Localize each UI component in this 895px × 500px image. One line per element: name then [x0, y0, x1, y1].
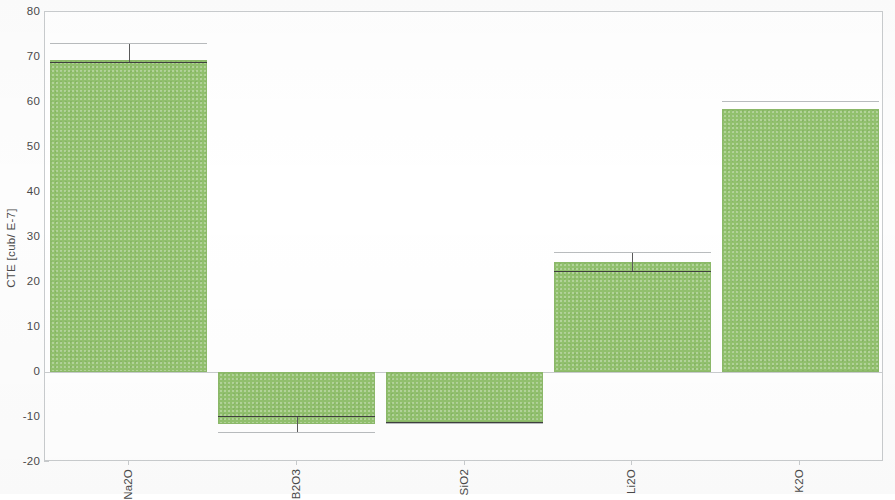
error-bar-cap-outer [554, 252, 711, 253]
error-bar-cap-outer [722, 101, 879, 102]
x-tick-label: Li2O [625, 469, 637, 494]
y-tick-label: 30 [27, 230, 40, 242]
x-tick-label: K2O [793, 469, 805, 493]
bar [386, 372, 543, 422]
bar [218, 372, 375, 424]
bar [554, 262, 711, 372]
x-tick-mark [128, 461, 129, 465]
y-tick-label: 20 [27, 275, 40, 287]
y-tick-label: 40 [27, 185, 40, 197]
x-tick-mark [631, 461, 632, 465]
error-bar-cap-outer [50, 43, 207, 44]
y-tick-label: 10 [27, 320, 40, 332]
error-bar-cap-outer [218, 432, 375, 433]
y-tick-label: 70 [27, 50, 40, 62]
plot-area [44, 11, 883, 461]
x-tick-mark [799, 461, 800, 465]
x-tick-label: B2O3 [290, 469, 302, 499]
error-bar [722, 99, 879, 103]
y-tick-label: 60 [27, 95, 40, 107]
x-tick-label: SiO2 [458, 469, 470, 495]
x-tick-mark [464, 461, 465, 465]
error-bar-cap-outer [386, 423, 543, 424]
x-axis-ticks: Na2OB2O3SiO2Li2OK2O [0, 461, 895, 494]
y-tick-label: 80 [27, 5, 40, 17]
x-tick-mark [296, 461, 297, 465]
y-tick-label: 0 [33, 365, 40, 377]
bar [722, 109, 879, 372]
y-tick-label: -10 [23, 410, 40, 422]
y-axis-ticks: -20-1001020304050607080 [0, 0, 40, 494]
y-tick-label: 50 [27, 140, 40, 152]
bar [50, 60, 207, 372]
error-bar-stem [129, 43, 130, 62]
x-tick-label: Na2O [122, 469, 134, 500]
error-bar-cap [722, 101, 879, 102]
